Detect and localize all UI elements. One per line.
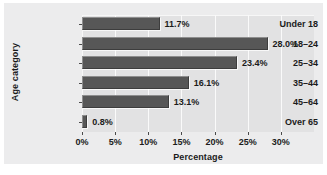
x-tick-mark	[181, 132, 182, 135]
bar	[82, 76, 189, 89]
chart-figure: Age category 11.7%Under 1828.0%18–2423.4…	[0, 0, 327, 175]
category-tick-label: 45–64	[244, 95, 318, 109]
x-tick-mark	[248, 132, 249, 135]
category-tick-label: 35–44	[244, 76, 318, 90]
category-tick-mark	[79, 83, 82, 84]
gridline	[181, 15, 182, 132]
bar	[82, 17, 160, 30]
x-axis-title: Percentage	[82, 152, 314, 162]
bar	[82, 95, 169, 108]
bar-value-label: 0.8%	[92, 115, 113, 129]
gridline	[115, 15, 116, 132]
category-tick-label: 25–34	[244, 56, 318, 70]
x-tick-mark	[82, 132, 83, 135]
y-axis-title: Age category	[10, 17, 20, 127]
x-tick-mark	[215, 132, 216, 135]
x-tick-mark	[148, 132, 149, 135]
bar	[82, 115, 87, 128]
bar	[82, 56, 237, 69]
category-tick-mark	[79, 24, 82, 25]
category-tick-mark	[79, 44, 82, 45]
category-tick-label: Under 18	[244, 17, 318, 31]
bar-value-label: 16.1%	[194, 76, 220, 90]
category-tick-mark	[79, 63, 82, 64]
x-tick-label: 30%	[261, 137, 301, 147]
category-tick-mark	[79, 102, 82, 103]
figure-canvas: Age category 11.7%Under 1828.0%18–2423.4…	[4, 3, 323, 164]
bar-value-label: 13.1%	[174, 95, 200, 109]
gridline	[148, 15, 149, 132]
x-tick-mark	[115, 132, 116, 135]
gridline	[215, 15, 216, 132]
x-tick-mark	[281, 132, 282, 135]
category-tick-mark	[79, 122, 82, 123]
category-tick-label: 18–24	[244, 37, 318, 51]
category-tick-label: Over 65	[244, 115, 318, 129]
bar-value-label: 11.7%	[165, 17, 190, 31]
bar	[82, 37, 268, 50]
